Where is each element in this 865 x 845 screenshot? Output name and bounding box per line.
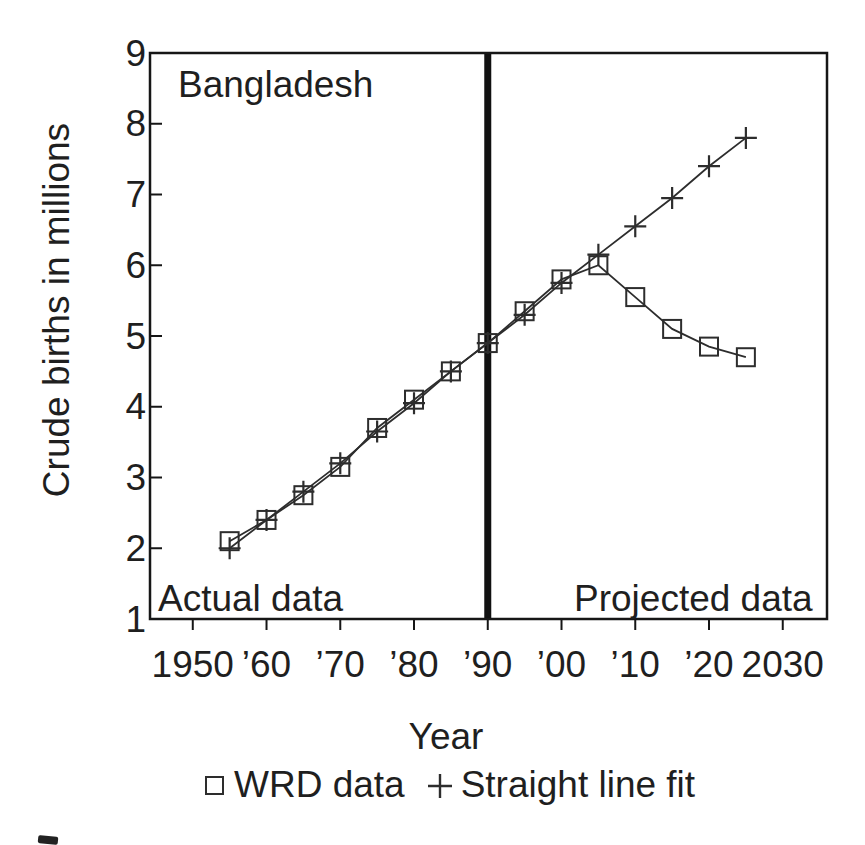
plus-marker-icon	[427, 773, 453, 799]
y-tick-label: 8	[0, 105, 146, 142]
legend-label-straight-line-fit: Straight line fit	[461, 766, 695, 803]
y-tick-label: 4	[0, 388, 146, 425]
data-point-plus	[735, 127, 757, 149]
square-marker-icon	[205, 776, 224, 795]
y-tick-label: 1	[0, 601, 146, 638]
y-tick-label: 2	[0, 530, 146, 567]
legend-item-straight-line-fit: Straight line fit	[427, 766, 695, 803]
legend-item-wrd-data: WRD data	[205, 766, 405, 803]
annotation-actual-data: Actual data	[158, 580, 343, 617]
legend-label-wrd-data: WRD data	[234, 766, 405, 803]
chart-legend: WRD data Straight line fit	[205, 766, 695, 803]
data-point-plus	[624, 215, 646, 237]
x-tick-label: 2030	[713, 646, 853, 683]
chart-title: Bangladesh	[178, 66, 373, 103]
y-tick-label: 9	[0, 35, 146, 72]
data-point-plus	[587, 244, 609, 266]
y-tick-label: 3	[0, 459, 146, 496]
y-tick-label: 5	[0, 318, 146, 355]
x-axis-label: Year	[409, 718, 484, 755]
scanned-chart-page: Bangladesh Crude births in millions Actu…	[0, 0, 865, 845]
y-tick-label: 7	[0, 176, 146, 213]
y-tick-label: 6	[0, 247, 146, 284]
annotation-projected-data: Projected data	[574, 580, 813, 617]
